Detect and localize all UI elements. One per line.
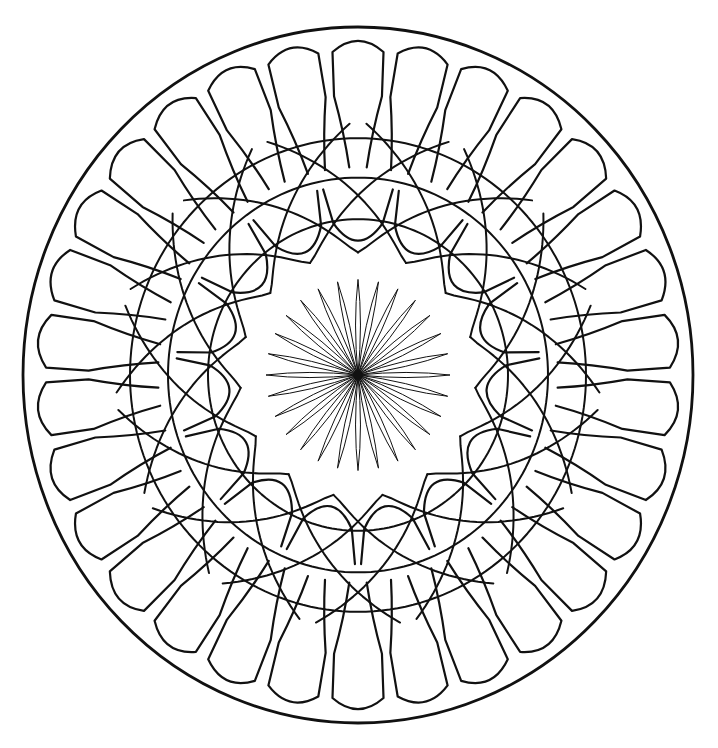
mandala-canvas	[0, 0, 718, 748]
mandala-artwork	[0, 0, 718, 748]
core-flower-hub	[354, 371, 363, 380]
